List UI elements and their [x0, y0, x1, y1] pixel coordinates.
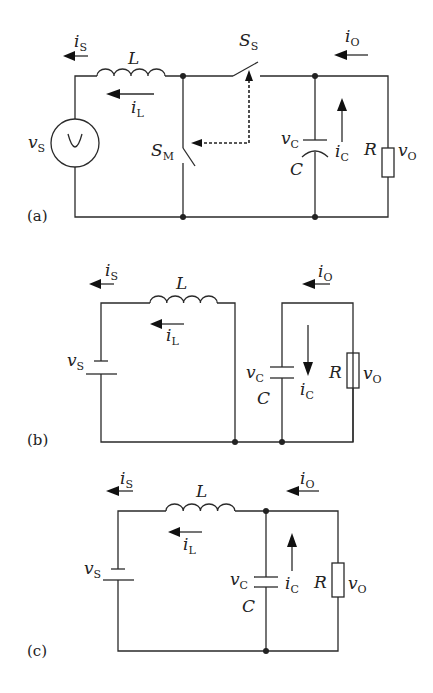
circuit-figure: iS L iL vS SM SS iO vC C iC R vO (a) — [0, 0, 433, 693]
label-ic: iC — [300, 379, 314, 402]
label-il: iL — [166, 325, 179, 348]
label-vo: vO — [363, 363, 382, 386]
node-dot — [180, 73, 186, 79]
label-vo: vO — [348, 573, 367, 596]
inductor-icon — [166, 504, 235, 511]
label-capacitor: C — [257, 388, 270, 408]
arrow-il-icon — [168, 527, 180, 537]
panel-tag-a: (a) — [27, 207, 48, 225]
wire — [235, 511, 338, 563]
arrow-ic-icon — [303, 362, 313, 376]
node-dot — [180, 214, 186, 220]
arrow-io-icon — [334, 50, 347, 60]
label-capacitor: C — [290, 159, 303, 179]
panel-tag-b: (b) — [27, 431, 48, 449]
inductor-icon — [150, 296, 217, 303]
wire — [101, 303, 150, 361]
label-is: iS — [120, 468, 133, 491]
arrow-ic-icon — [287, 533, 297, 547]
label-ic: iC — [285, 573, 299, 596]
label-capacitor: C — [242, 596, 255, 616]
arrow-ic-icon — [337, 98, 347, 111]
arrow-il-icon — [150, 319, 162, 329]
node-dot — [312, 214, 318, 220]
label-io: iO — [345, 26, 359, 49]
wire — [101, 353, 353, 442]
label-resistor: R — [313, 572, 327, 592]
wire — [75, 167, 388, 217]
label-vc: vC — [230, 569, 248, 592]
label-io: iO — [318, 261, 332, 284]
switch-sm-icon — [183, 148, 195, 166]
wire — [118, 511, 166, 569]
label-resistor: R — [328, 362, 342, 382]
label-il: iL — [131, 97, 144, 120]
arrow-up-icon — [245, 70, 253, 81]
ac-source-icon — [51, 119, 99, 167]
panel-a: iS L iL vS SM SS iO vC C iC R vO (a) — [27, 26, 417, 225]
panel-tag-c: (c) — [27, 642, 47, 660]
arrow-io-icon — [286, 486, 299, 496]
wire — [75, 76, 97, 119]
label-vo: vO — [398, 140, 417, 163]
arrow-left-icon — [191, 139, 202, 147]
node-dot — [263, 508, 269, 514]
wire — [217, 303, 235, 442]
arrow-is-icon — [63, 51, 75, 61]
label-vs: vS — [67, 350, 84, 373]
label-vs: vS — [28, 132, 45, 155]
label-ic: iC — [335, 141, 349, 164]
label-ss: SS — [239, 30, 258, 53]
resistor-icon — [332, 563, 344, 597]
switch-ss-icon — [233, 62, 258, 76]
label-is: iS — [105, 260, 118, 283]
node-dot — [232, 439, 238, 445]
label-inductor: L — [175, 273, 187, 293]
label-vc: vC — [246, 362, 264, 385]
arrow-il-icon — [106, 89, 120, 99]
label-il: iL — [183, 534, 196, 557]
label-vs: vS — [84, 558, 101, 581]
arrow-is-icon — [89, 279, 101, 289]
panel-c: iS L iL vS iO vC C iC R vO (c) — [27, 468, 367, 660]
label-inductor: L — [195, 481, 207, 501]
panel-b: iS L iL vS iO vC C iC R vO (b) — [27, 260, 382, 449]
resistor-icon — [382, 148, 394, 177]
arrow-io-icon — [302, 279, 315, 289]
node-dot — [279, 439, 285, 445]
label-is: iS — [74, 31, 87, 54]
control-link-dashed — [198, 80, 249, 143]
arrow-is-icon — [106, 486, 119, 496]
wire — [282, 303, 353, 367]
ac-wave-icon — [68, 134, 82, 147]
label-inductor: L — [127, 48, 139, 68]
node-dot — [312, 73, 318, 79]
wire — [118, 580, 338, 651]
inductor-icon — [97, 69, 165, 76]
node-dot — [263, 648, 269, 654]
wire — [260, 76, 388, 148]
label-sm: SM — [151, 140, 174, 163]
label-vc: vC — [281, 128, 299, 151]
label-io: iO — [300, 468, 314, 491]
label-resistor: R — [363, 139, 377, 159]
